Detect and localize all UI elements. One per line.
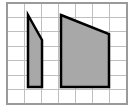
- figure-canvas: [0, 0, 137, 112]
- geometry-figure: [0, 0, 137, 112]
